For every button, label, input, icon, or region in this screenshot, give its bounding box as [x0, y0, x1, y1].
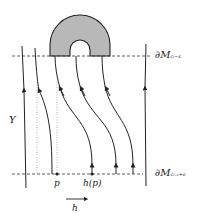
flow-line-1-top [22, 46, 24, 90]
flow-line-5-body [102, 56, 133, 165]
flow-line-3-arrow [60, 88, 64, 96]
flow-line-2 [39, 90, 52, 174]
flow-line-1 [24, 90, 26, 188]
shaded-handle-region [50, 15, 110, 56]
flow-line-6-top [145, 44, 146, 88]
flow-line-6 [145, 88, 146, 186]
flow-line-4-body [76, 56, 116, 165]
bottom-boundary-symbol: ∂M [155, 167, 170, 178]
flow-line-2-top [35, 48, 39, 90]
point-h-p [90, 172, 93, 175]
point-h-p-label: h(p) [83, 179, 102, 188]
top-boundary-symbol: ∂M [155, 49, 170, 60]
bottom-boundary-subscript: cᵢ₋₁+ε [170, 171, 185, 177]
top-boundary-label: ∂Mcᵢ−ε [155, 50, 181, 60]
point-p [55, 172, 58, 175]
region-y-label: Y [9, 115, 16, 125]
flow-line-3-body [55, 56, 92, 165]
bottom-boundary-label: ∂Mcᵢ₋₁+ε [155, 168, 186, 178]
top-boundary-subscript: cᵢ−ε [170, 53, 181, 59]
point-p-label: p [54, 179, 60, 188]
map-h-label: h [72, 204, 78, 213]
